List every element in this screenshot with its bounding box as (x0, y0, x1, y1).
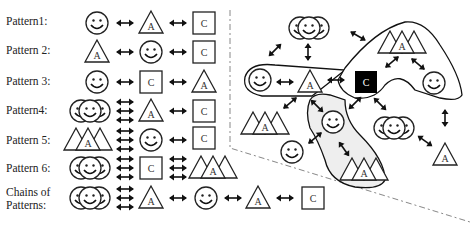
smiley-group-icon (289, 17, 329, 39)
svg-text:C: C (148, 163, 155, 174)
smiley-icon (322, 111, 344, 133)
smiley-icon (195, 187, 217, 209)
smiley-icon (86, 12, 108, 34)
svg-text:A: A (147, 196, 155, 207)
svg-text:A: A (254, 196, 262, 207)
double-arrow-icon (169, 20, 187, 27)
pattern5-row: A C (64, 127, 215, 153)
svg-text:C: C (201, 18, 208, 29)
triple-double-arrow-icon (116, 99, 134, 124)
pattern1-row: A C (86, 11, 215, 34)
triple-double-arrow-icon (169, 156, 187, 181)
svg-text:A: A (209, 166, 217, 177)
smiley-group-icon (70, 100, 110, 122)
svg-text:A: A (200, 80, 208, 91)
svg-text:A: A (360, 168, 368, 179)
double-arrow-icon (116, 20, 134, 27)
svg-text:A: A (441, 153, 449, 164)
double-arrow-icon (169, 137, 187, 144)
smiley-icon (423, 72, 445, 94)
svg-text:A: A (147, 21, 155, 32)
smiley-icon (140, 129, 162, 151)
double-arrow-icon (371, 95, 389, 113)
svg-text:C: C (148, 77, 155, 88)
double-arrow-icon (442, 109, 449, 127)
smiley-group-icon (70, 187, 110, 209)
double-arrow-icon (116, 49, 134, 56)
svg-text:C: C (363, 77, 370, 88)
smiley-icon (86, 71, 108, 93)
svg-text:C: C (201, 47, 208, 58)
double-arrow-icon (416, 133, 435, 149)
double-arrow-icon (266, 41, 284, 59)
triple-double-arrow-icon (116, 156, 134, 181)
pattern2-row: A C (85, 40, 215, 63)
double-arrow-icon (276, 195, 294, 202)
svg-text:C: C (201, 106, 208, 117)
svg-text:A: A (306, 80, 314, 91)
svg-text:C: C (201, 133, 208, 144)
chains-row: A A C (70, 186, 324, 211)
smiley-icon (140, 41, 162, 63)
double-arrow-icon (281, 95, 299, 112)
pattern-diagram: A C A C C A A C A (0, 0, 476, 226)
svg-text:A: A (398, 41, 406, 52)
svg-text:A: A (147, 109, 155, 120)
double-arrow-icon (224, 195, 242, 202)
double-arrow-icon (348, 28, 367, 43)
double-arrow-icon (305, 43, 312, 61)
svg-text:A: A (84, 138, 92, 149)
svg-text:C: C (310, 193, 317, 204)
triple-double-arrow-icon (116, 186, 134, 211)
smiley-group-icon (70, 157, 110, 179)
pattern6-row: C A (70, 156, 237, 181)
double-arrow-icon (169, 49, 187, 56)
double-arrow-icon (169, 79, 187, 86)
pattern4-row: A C (70, 99, 215, 124)
svg-text:A: A (93, 50, 101, 61)
double-arrow-icon (116, 79, 134, 86)
pattern3-row: C A (86, 70, 216, 93)
svg-text:A: A (261, 122, 269, 133)
smiley-group-icon (374, 117, 414, 139)
triple-double-arrow-icon (116, 128, 134, 153)
double-arrow-icon (169, 108, 187, 115)
double-arrow-icon (169, 195, 187, 202)
smiley-icon (281, 141, 303, 163)
smiley-icon (249, 69, 271, 91)
